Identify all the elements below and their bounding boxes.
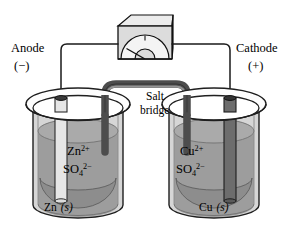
- galvanic-cell-figure: Anode (−) Cathode (+) Salt bridge Zn2+ S…: [0, 0, 292, 245]
- left-cation-charge: 2+: [81, 144, 90, 153]
- cell-diagram-canvas: Anode (−) Cathode (+) Salt bridge Zn2+ S…: [0, 0, 292, 245]
- zinc-solid-symbol: Zn: [44, 201, 57, 213]
- zinc-electrode-top-cap: [55, 96, 67, 101]
- left-beaker-rim: [26, 88, 130, 121]
- right-cation-charge: 2+: [195, 144, 204, 153]
- cathode-half-cell: [162, 88, 266, 218]
- cathode-label: Cathode: [236, 41, 278, 55]
- copper-electrode-top-cap: [224, 96, 236, 101]
- left-anion-charge: 2−: [83, 162, 92, 171]
- right-anion-symbol: SO: [176, 162, 192, 176]
- anode-label: Anode: [11, 41, 45, 55]
- right-beaker-rim: [162, 88, 266, 121]
- salt-bridge-label-line2: bridge: [140, 104, 169, 117]
- copper-solid-symbol: Cu: [199, 201, 213, 213]
- left-anion-subscript: 4: [79, 169, 83, 178]
- left-cation-symbol: Zn: [67, 144, 82, 158]
- left-anion-symbol: SO: [63, 162, 79, 176]
- voltmeter: [118, 15, 173, 59]
- right-cation-symbol: Cu: [180, 144, 195, 158]
- right-anion-subscript: 4: [192, 169, 196, 178]
- cathode-sign-label: (+): [248, 59, 263, 73]
- copper-solid-state: (s): [216, 201, 228, 214]
- anode-sign-label: (−): [14, 59, 29, 73]
- salt-bridge-label-line1: Salt: [146, 90, 165, 102]
- zinc-solid-state: (s): [61, 201, 73, 214]
- right-anion-charge: 2−: [196, 162, 205, 171]
